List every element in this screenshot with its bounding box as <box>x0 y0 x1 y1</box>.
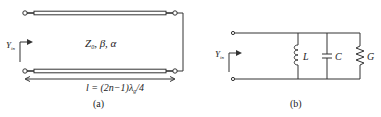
figure-canvas: Yin Z0, β, α l = (2n−1)λg/4 (a) <box>0 0 381 117</box>
top-conductor <box>34 11 166 15</box>
yin-arrow-a <box>20 42 28 62</box>
resistor-label: G <box>367 51 374 62</box>
inductor-icon <box>294 33 298 79</box>
terminal-b-top <box>231 31 234 34</box>
short-circuit-wire <box>177 13 183 71</box>
yin-label-a: Yin <box>6 40 15 51</box>
terminal-top-left <box>23 11 27 15</box>
terminal-bottom-left <box>23 69 27 73</box>
yin-label-b: Yin <box>215 49 224 60</box>
resistor-icon <box>356 33 364 79</box>
terminal-b-bottom <box>231 77 234 80</box>
caption-b: (b) <box>290 98 302 110</box>
capacitor-icon <box>322 33 332 79</box>
panel-b-rlc-circuit <box>229 31 364 80</box>
caption-a: (a) <box>93 98 104 110</box>
capacitor-label: C <box>335 51 342 62</box>
line-parameters-label: Z0, β, α <box>85 37 117 50</box>
length-label: l = (2n−1)λg/4 <box>86 82 144 94</box>
inductor-label: L <box>302 51 309 62</box>
terminal-bottom-right <box>173 69 177 73</box>
yin-arrow-b <box>229 53 237 72</box>
bottom-conductor <box>34 69 166 73</box>
terminal-top-right <box>173 11 177 15</box>
